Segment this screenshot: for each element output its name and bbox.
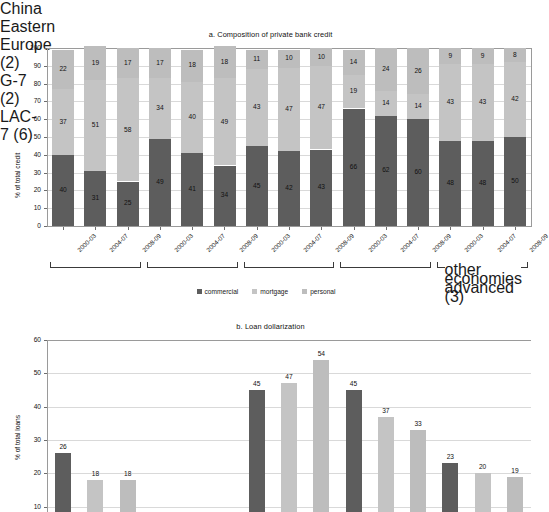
x-category-label: 2000-03 bbox=[269, 232, 290, 253]
bar-value-label: 43 bbox=[438, 99, 462, 106]
bar-value-label: 47 bbox=[277, 374, 301, 381]
bar-value-label: 20 bbox=[471, 464, 495, 471]
bar-value-label: 33 bbox=[406, 421, 430, 428]
bar-value-label: 54 bbox=[309, 351, 333, 358]
legend-label: personal bbox=[310, 288, 335, 295]
bar-value-label: 31 bbox=[83, 195, 107, 202]
bar-value-label: 10 bbox=[309, 54, 333, 61]
bar-value-label: 40 bbox=[180, 114, 204, 121]
bar-value-label: 18 bbox=[116, 471, 140, 478]
panel-a-y-axis-label: % of total credit bbox=[14, 153, 21, 198]
bar bbox=[313, 360, 329, 512]
bar-value-label: 18 bbox=[213, 59, 237, 66]
bar-value-label: 17 bbox=[148, 60, 172, 67]
bar-value-label: 10 bbox=[277, 55, 301, 62]
y-tick-label: 30 bbox=[23, 437, 41, 444]
legend-swatch-personal bbox=[302, 289, 307, 294]
bar-value-label: 50 bbox=[503, 178, 527, 185]
y-axis-line-right bbox=[531, 48, 532, 227]
bar-value-label: 48 bbox=[438, 180, 462, 187]
bar-value-label: 23 bbox=[438, 454, 462, 461]
bar-value-label: 17 bbox=[116, 60, 140, 67]
y-tick-label: 40 bbox=[23, 404, 41, 411]
y-axis-line bbox=[47, 48, 48, 227]
bar-value-label: 47 bbox=[277, 106, 301, 113]
y-tick-label: 90 bbox=[23, 63, 41, 70]
y-tick-label: 30 bbox=[23, 170, 41, 177]
y-tick-label: 50 bbox=[23, 134, 41, 141]
legend-swatch-mortgage bbox=[252, 289, 257, 294]
x-category-label: 2008-09 bbox=[334, 232, 355, 253]
bar-value-label: 58 bbox=[116, 127, 140, 134]
bar-value-label: 18 bbox=[83, 471, 107, 478]
bar-value-label: 45 bbox=[245, 381, 269, 388]
bar-value-label: 43 bbox=[309, 184, 333, 191]
x-tick-mark bbox=[128, 227, 129, 230]
x-category-label: 2004-07 bbox=[108, 232, 129, 253]
y-tick-label: 60 bbox=[23, 337, 41, 344]
bar-value-label: 26 bbox=[51, 444, 75, 451]
bracket-line bbox=[340, 267, 431, 268]
y-tick-label: 80 bbox=[23, 81, 41, 88]
y-tick-label: 50 bbox=[23, 370, 41, 377]
bar bbox=[507, 477, 523, 512]
bar-value-label: 11 bbox=[245, 56, 269, 63]
group-bracket bbox=[244, 262, 335, 268]
bar bbox=[346, 390, 362, 512]
bar-value-label: 42 bbox=[277, 185, 301, 192]
bar-value-label: 19 bbox=[342, 88, 366, 95]
bar-value-label: 43 bbox=[471, 99, 495, 106]
bracket-line bbox=[50, 267, 141, 268]
bar bbox=[442, 463, 458, 512]
x-tick-mark bbox=[224, 227, 225, 230]
group-bracket bbox=[147, 262, 238, 268]
group-label: China bbox=[0, 0, 36, 18]
y-tick-label: 0 bbox=[23, 223, 41, 230]
x-tick-mark bbox=[192, 227, 193, 230]
bar-value-label: 51 bbox=[83, 122, 107, 129]
bar-value-label: 19 bbox=[83, 60, 107, 67]
bar-value-label: 42 bbox=[503, 96, 527, 103]
x-category-label: 2004-07 bbox=[205, 232, 226, 253]
bar bbox=[410, 430, 426, 512]
x-category-label: 2000-03 bbox=[463, 232, 484, 253]
bar-value-label: 40 bbox=[51, 187, 75, 194]
x-tick-mark bbox=[160, 227, 161, 230]
bar-value-label: 8 bbox=[503, 52, 527, 59]
bar-value-label: 19 bbox=[503, 468, 527, 475]
x-category-label: 2008-09 bbox=[140, 232, 161, 253]
x-category-label: 2000-03 bbox=[76, 232, 97, 253]
x-tick-mark bbox=[257, 227, 258, 230]
panel-a-chart: 0102030405060708090100% of total credit4… bbox=[0, 0, 541, 144]
bar-value-label: 22 bbox=[51, 66, 75, 73]
group-bracket bbox=[50, 262, 141, 268]
bracket-line bbox=[147, 267, 238, 268]
x-category-label: 2008-09 bbox=[237, 232, 258, 253]
y-tick-label: 10 bbox=[23, 205, 41, 212]
bar bbox=[55, 453, 71, 512]
x-category-label: 2000-03 bbox=[366, 232, 387, 253]
bar-value-label: 60 bbox=[406, 169, 430, 176]
x-tick-mark bbox=[95, 227, 96, 230]
x-category-label: 2000-03 bbox=[173, 232, 194, 253]
chart-legend: commercialmortgagepersonal bbox=[0, 288, 541, 295]
legend-label: commercial bbox=[205, 288, 239, 295]
x-tick-mark bbox=[483, 227, 484, 230]
bar-value-label: 14 bbox=[406, 103, 430, 110]
legend-item: personal bbox=[302, 288, 335, 295]
bar-value-label: 37 bbox=[374, 408, 398, 415]
bar-value-label: 34 bbox=[148, 105, 172, 112]
x-tick-mark bbox=[354, 227, 355, 230]
legend-item: commercial bbox=[197, 288, 239, 295]
x-tick-mark bbox=[63, 227, 64, 230]
plot-top-border bbox=[47, 340, 531, 341]
bar-value-label: 45 bbox=[245, 183, 269, 190]
bar bbox=[475, 473, 491, 512]
bar-value-label: 9 bbox=[471, 53, 495, 60]
bar-value-label: 45 bbox=[342, 381, 366, 388]
bar-value-label: 66 bbox=[342, 164, 366, 171]
y-tick-label: 60 bbox=[23, 116, 41, 123]
y-tick-label: 20 bbox=[23, 187, 41, 194]
y-tick-label: 70 bbox=[23, 98, 41, 105]
